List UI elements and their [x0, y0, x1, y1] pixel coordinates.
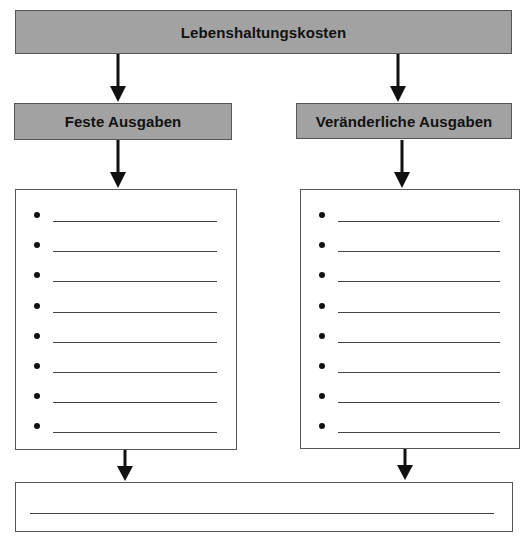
bullet-icon — [319, 333, 325, 339]
list-item — [16, 208, 236, 238]
blank-answer-line[interactable] — [53, 221, 217, 222]
bullet-icon — [319, 393, 325, 399]
list-item — [301, 238, 519, 268]
blank-answer-line[interactable] — [53, 281, 217, 282]
blank-answer-line[interactable] — [53, 372, 217, 373]
blank-answer-line[interactable] — [53, 402, 217, 403]
bullet-icon — [319, 242, 325, 248]
list-item — [16, 389, 236, 419]
arrow-down-icon — [108, 54, 128, 104]
blank-answer-line[interactable] — [338, 342, 500, 343]
bullet-icon — [319, 272, 325, 278]
list-item — [16, 359, 236, 389]
blank-answer-line[interactable] — [53, 312, 217, 313]
blank-answer-line[interactable] — [53, 251, 217, 252]
arrow-down-icon — [392, 140, 412, 190]
list-item — [16, 329, 236, 359]
list-item — [16, 268, 236, 298]
list-item — [301, 329, 519, 359]
fixed-expenses-list — [15, 189, 237, 450]
list-item — [16, 299, 236, 329]
branch-label: Veränderliche Ausgaben — [316, 113, 493, 130]
blank-answer-line[interactable] — [338, 281, 500, 282]
title-box: Lebenshaltungskosten — [15, 10, 512, 54]
arrow-down-icon — [395, 449, 415, 481]
bullet-icon — [34, 393, 40, 399]
list-item — [16, 238, 236, 268]
bullet-icon — [319, 303, 325, 309]
blank-answer-line[interactable] — [338, 372, 500, 373]
bullet-icon — [34, 303, 40, 309]
branch-header-fixed: Feste Ausgaben — [14, 103, 232, 140]
branch-label: Feste Ausgaben — [65, 113, 182, 130]
list-item — [301, 359, 519, 389]
list-item — [16, 419, 236, 449]
arrow-down-icon — [388, 54, 408, 104]
arrow-down-icon — [108, 140, 128, 190]
result-box — [15, 482, 513, 532]
blank-answer-line[interactable] — [338, 221, 500, 222]
bullet-icon — [34, 363, 40, 369]
blank-answer-line[interactable] — [53, 342, 217, 343]
list-item — [301, 208, 519, 238]
arrow-down-icon — [115, 450, 135, 482]
bullet-icon — [319, 212, 325, 218]
list-item — [301, 419, 519, 449]
bullet-icon — [319, 423, 325, 429]
blank-answer-line[interactable] — [53, 432, 217, 433]
bullet-icon — [34, 272, 40, 278]
bullet-icon — [34, 212, 40, 218]
title-label: Lebenshaltungskosten — [181, 24, 346, 41]
list-item — [301, 299, 519, 329]
blank-answer-line[interactable] — [30, 513, 494, 514]
blank-answer-line[interactable] — [338, 251, 500, 252]
blank-answer-line[interactable] — [338, 402, 500, 403]
variable-expenses-list — [300, 189, 520, 449]
blank-answer-line[interactable] — [338, 312, 500, 313]
branch-header-variable: Veränderliche Ausgaben — [296, 103, 512, 139]
bullet-icon — [34, 423, 40, 429]
list-item — [301, 268, 519, 298]
blank-answer-line[interactable] — [338, 432, 500, 433]
bullet-icon — [34, 242, 40, 248]
bullet-icon — [319, 363, 325, 369]
bullet-icon — [34, 333, 40, 339]
list-item — [301, 389, 519, 419]
